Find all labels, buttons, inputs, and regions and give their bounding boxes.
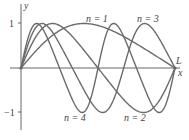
end-dot bbox=[173, 66, 176, 69]
y-tick-label-neg1: −1 bbox=[4, 107, 15, 118]
L-label: L bbox=[175, 55, 182, 66]
label-n4: n = 4 bbox=[64, 112, 86, 123]
label-n1: n = 1 bbox=[86, 13, 108, 24]
label-n2: n = 2 bbox=[124, 112, 146, 123]
mode-shapes-chart: y x L 1 −1 n = 1 n = 3 n = 4 n = 2 bbox=[0, 0, 189, 140]
x-axis-label: x bbox=[177, 67, 183, 78]
origin-dot bbox=[19, 66, 22, 69]
y-tick-label-1: 1 bbox=[9, 18, 14, 29]
label-n3: n = 3 bbox=[137, 13, 159, 24]
y-axis-label: y bbox=[23, 0, 29, 11]
